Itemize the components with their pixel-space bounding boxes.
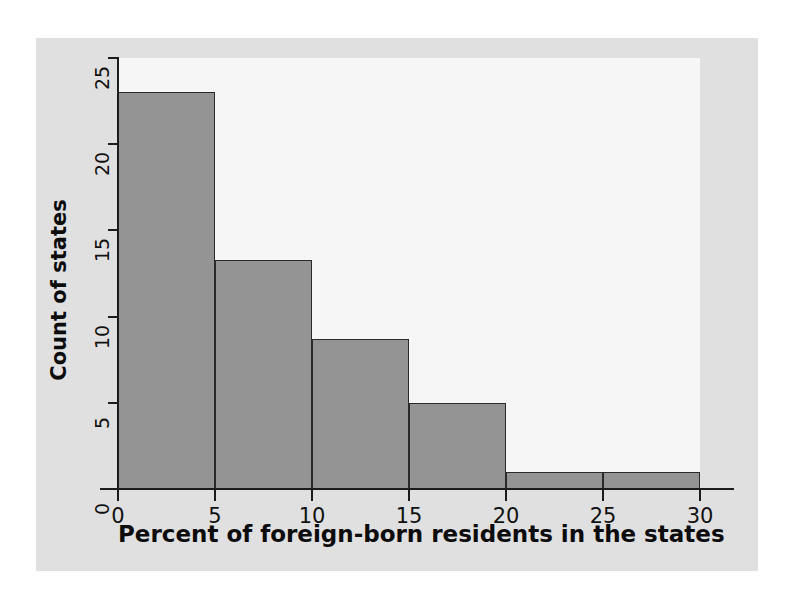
- x-tick-mark: [602, 490, 604, 501]
- x-tick-mark: [505, 490, 507, 501]
- x-tick-mark: [408, 490, 410, 501]
- histogram-bar: [603, 472, 700, 489]
- histogram-bar: [506, 472, 603, 489]
- x-axis-title: Percent of foreign-born residents in the…: [118, 521, 700, 547]
- x-axis-line: [100, 488, 734, 490]
- y-tick-label: 20: [91, 144, 113, 184]
- histogram-bar: [118, 92, 215, 489]
- x-tick-mark: [699, 490, 701, 501]
- y-axis-line: [117, 57, 119, 490]
- x-tick-mark: [214, 490, 216, 501]
- histogram-bar: [215, 260, 312, 489]
- y-axis-title: Count of states: [47, 180, 71, 400]
- y-tick-label: 5: [91, 403, 113, 443]
- figure-root: 0510152025 051015202530 Count of states …: [0, 0, 795, 594]
- y-tick-label: 25: [91, 58, 113, 98]
- x-tick-mark: [311, 490, 313, 501]
- y-tick-label: 15: [91, 230, 113, 270]
- histogram-bar: [312, 339, 409, 489]
- histogram-bar: [409, 403, 506, 489]
- y-tick-label: 10: [91, 317, 113, 357]
- x-tick-mark: [117, 490, 119, 501]
